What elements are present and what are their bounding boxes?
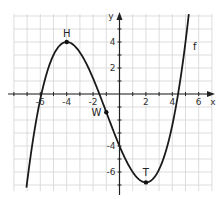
- point-w-marker: [104, 110, 108, 114]
- y-tick-label: -4: [107, 141, 116, 151]
- function-label: f: [193, 41, 197, 52]
- point-w-label: W: [91, 107, 101, 118]
- point-t-marker: [144, 180, 148, 184]
- y-tick-label: 4: [110, 37, 116, 47]
- point-h-marker: [65, 40, 69, 44]
- point-h-label: H: [63, 28, 71, 39]
- x-tick-label: -4: [62, 97, 71, 107]
- x-tick-label: 4: [169, 97, 175, 107]
- point-t-label: T: [142, 167, 150, 178]
- x-tick-label: 2: [143, 97, 149, 107]
- y-tick-label: -6: [107, 167, 116, 177]
- function-curve-f: [26, 14, 188, 188]
- x-axis-label: x: [210, 97, 216, 107]
- x-tick-label: 6: [196, 97, 202, 107]
- y-axis-label: y: [108, 11, 114, 21]
- function-graph: -6-4-224642-4-6 HWT x y f: [0, 0, 222, 199]
- x-tick-label: -2: [89, 97, 98, 107]
- y-tick-label: 2: [110, 63, 116, 73]
